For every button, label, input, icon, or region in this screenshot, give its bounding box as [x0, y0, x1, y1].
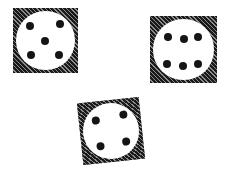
- die-face-circle: [153, 19, 213, 79]
- pip-dot: [194, 60, 202, 68]
- pip-dot: [194, 33, 202, 41]
- die-six: [150, 16, 217, 83]
- pip-dot: [179, 62, 187, 70]
- pip-dot: [41, 37, 49, 45]
- die-five: [13, 8, 78, 73]
- pip-dot: [27, 51, 35, 59]
- pip-dot: [96, 141, 105, 150]
- pip-dot: [180, 35, 188, 43]
- pip-dot: [55, 51, 63, 59]
- die-four: [77, 97, 145, 165]
- pip-dot: [163, 60, 171, 68]
